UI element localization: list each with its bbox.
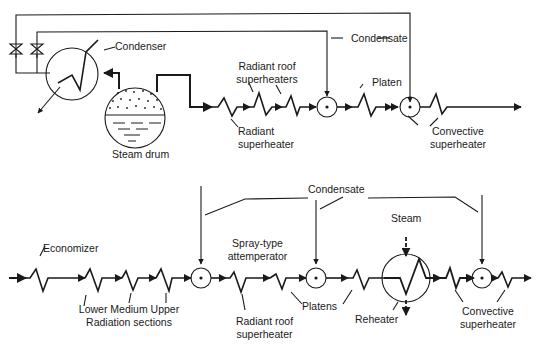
label-radiant-roof-superheater: Radiant roof superheater <box>222 315 307 341</box>
radiant-roof-superheater-coil <box>226 272 265 292</box>
valve-icon <box>10 44 43 54</box>
label-radiant-roof-superheaters: Radiant roof superheaters <box>222 60 312 86</box>
label-reheater: Reheater <box>355 313 398 326</box>
label-radiant-superheater: Radiant superheater <box>238 125 294 151</box>
label-platen: Platen <box>372 76 402 89</box>
label-condenser: Condenser <box>115 40 166 53</box>
label-condensate-bottom: Condensate <box>308 183 365 196</box>
platen-coil-bottom <box>270 274 300 289</box>
label-convective-superheater-bottom: Convective superheater <box>448 305 528 331</box>
condensate-line-outer <box>16 13 410 100</box>
platen-coil <box>352 94 388 116</box>
medium-radiation-coil <box>122 271 151 290</box>
label-radiation-sections: Lower Medium Upper Radiation sections <box>74 303 184 329</box>
label-steam-drum: Steam drum <box>112 148 169 161</box>
radiant-roof-coil-2 <box>282 96 312 115</box>
label-economizer: Economizer <box>43 242 98 255</box>
lower-radiation-coil <box>85 269 117 291</box>
radiant-superheater-coil <box>212 98 246 116</box>
condenser-icon <box>46 48 98 100</box>
label-condensate-top: Condensate <box>351 32 408 45</box>
upper-radiation-coil <box>156 269 185 291</box>
convective-superheater-coil <box>420 94 521 114</box>
label-platens: Platens <box>302 300 337 313</box>
economizer-coil <box>26 269 80 291</box>
label-spray-attemperator: Spray-type attemperator <box>215 237 300 263</box>
boiler-flow-diagram <box>0 0 549 345</box>
label-convective-superheater-top: Convective superheater <box>418 125 498 151</box>
radiant-roof-coil-1 <box>250 93 278 115</box>
label-steam: Steam <box>391 212 421 225</box>
steam-drum-icon <box>105 88 165 148</box>
